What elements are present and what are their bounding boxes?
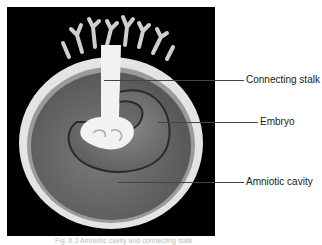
leader-line-connecting-stalk [104, 80, 244, 81]
label-amniotic-cavity: Amniotic cavity [246, 176, 313, 188]
label-embryo: Embryo [260, 116, 294, 128]
leader-line-amniotic-cavity [118, 182, 244, 183]
leader-line-embryo [158, 122, 258, 123]
label-connecting-stalk: Connecting stalk [246, 74, 320, 86]
figure-caption: Fig. 6.3 Amniotic cavity and connecting … [55, 237, 192, 244]
